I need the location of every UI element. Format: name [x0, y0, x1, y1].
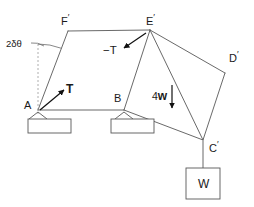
supports-group: [28, 112, 154, 133]
support-base-a: [28, 119, 71, 133]
vertex-letter: F: [61, 15, 68, 27]
force-label-minus-t: −T: [103, 45, 117, 57]
angle-annotation-group: [31, 43, 61, 114]
force-label-tension-t: T: [66, 83, 73, 95]
angle-label-2-delta-theta: 2δθ: [6, 39, 22, 49]
member-eprime-cprime: [150, 30, 203, 140]
force-arrow-minus-t: [124, 33, 146, 48]
force-symbol-w: w: [158, 89, 167, 103]
pin-triangle-b: [115, 112, 133, 119]
free-body-diagram-figure: A B C′ D′ E′ F′ 2δθ T −T 4w W: [0, 0, 254, 207]
vertex-label-b: B: [114, 93, 121, 104]
vertex-label-c-prime: C′: [209, 140, 219, 154]
vertex-letter: D: [229, 52, 237, 64]
prime-mark: ′: [237, 49, 239, 59]
vertex-letter: B: [114, 92, 121, 104]
force-label-4w: 4w: [152, 90, 167, 102]
member-b-eprime: [124, 30, 150, 110]
prime-mark: ′: [217, 139, 219, 149]
vertex-label-d-prime: D′: [229, 50, 239, 64]
pin-support-a: [28, 112, 71, 133]
diagram-canvas: [0, 0, 254, 207]
vertex-label-a: A: [24, 100, 31, 111]
vertex-label-f-prime: F′: [61, 13, 69, 27]
support-base-b: [111, 119, 154, 133]
vertex-label-e-prime: E′: [146, 13, 155, 27]
force-arrow-tension-t: [40, 90, 64, 110]
prime-mark: ′: [68, 12, 70, 22]
pin-support-b: [111, 112, 154, 133]
weight-box-label: W: [198, 178, 209, 190]
vertex-letter: A: [24, 99, 31, 111]
prime-mark: ′: [153, 12, 155, 22]
member-dprime-cprime: [203, 73, 225, 140]
member-fprime-eprime: [68, 30, 150, 31]
vertex-letter: C: [209, 142, 217, 154]
member-eprime-dprime: [150, 30, 225, 73]
member-a-fprime: [38, 31, 68, 110]
